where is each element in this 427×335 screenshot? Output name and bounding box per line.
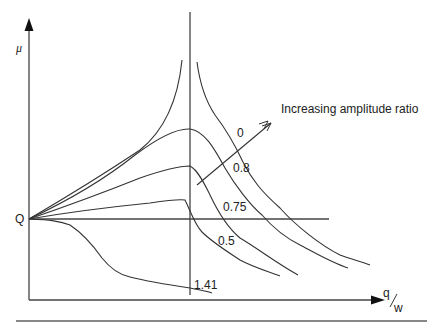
x-axis	[29, 296, 385, 305]
curve-label-0-8: 0.8	[233, 161, 250, 175]
curve-label-0-75: 0.75	[223, 200, 247, 214]
curve-label-0: 0	[237, 126, 244, 140]
y-axis-arrow-icon	[25, 18, 34, 31]
x-axis-label: q w	[383, 286, 403, 315]
curve-1-41	[29, 219, 212, 293]
curve-label-1-41: 1.41	[194, 278, 218, 292]
curve-label-0-5: 0.5	[218, 234, 235, 248]
annotation-increasing-amplitude: Increasing amplitude ratio	[281, 102, 419, 116]
svg-text:w: w	[393, 301, 403, 315]
amplitude-ratio-diagram: μ Q Increasing amplitude ratio 0 0.8 0.7…	[0, 0, 427, 335]
bottom-rule	[16, 320, 427, 322]
double-arrowhead-icon	[259, 121, 271, 131]
curve-0-8	[29, 129, 348, 268]
curve-0-8-lower	[29, 166, 298, 275]
increasing-amplitude-arrow	[197, 121, 271, 185]
y-axis-label: μ	[15, 41, 22, 55]
svg-text:q: q	[383, 286, 390, 300]
origin-label-q: Q	[15, 212, 24, 226]
y-axis	[25, 18, 34, 300]
